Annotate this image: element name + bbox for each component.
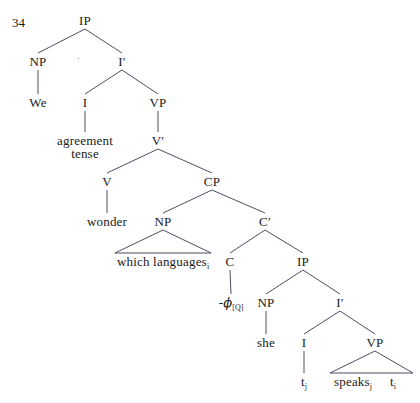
edge-vbar1-cp1: [158, 149, 212, 173]
tree-node-ibar2: I′: [336, 296, 344, 309]
tree-node-i1: I: [83, 96, 88, 109]
triangle-np2-whichlang: [115, 230, 211, 253]
tree-node-c1: C: [226, 255, 235, 268]
edge-vbar1-v1: [107, 149, 158, 173]
edge-ibar2-i2: [304, 311, 340, 334]
edge-ip1-np1: [38, 29, 85, 53]
tree-node-ip2: IP: [297, 255, 309, 268]
tree-node-v1: V: [102, 175, 112, 188]
tree-node-we: We: [29, 96, 46, 109]
tree-node-tj: tj: [301, 375, 307, 390]
tree-node-ibar1: I′: [118, 55, 126, 68]
tree-node-agrtense: agreementtense: [57, 134, 113, 160]
edge-cbar1-ip2: [265, 230, 303, 253]
tree-node-ti: ti: [390, 375, 396, 390]
tree-branch-lines: [0, 0, 420, 403]
edge-ip2-ibar2: [303, 270, 340, 294]
edge-ip2-np3: [266, 270, 303, 294]
tree-node-vp1: VP: [149, 96, 166, 109]
speck-artifact: [78, 58, 79, 59]
edge-ibar1-vp1: [122, 70, 158, 94]
tree-node-np3: NP: [257, 296, 274, 309]
tree-node-vbar1: V′: [152, 134, 165, 147]
edge-cp1-np2: [163, 190, 212, 213]
tree-node-whichlang: which languagesi: [117, 255, 209, 270]
tree-node-i2: I: [302, 336, 307, 349]
edge-ibar2-vp2: [340, 311, 375, 334]
tree-node-ip1: IP: [79, 14, 91, 27]
edge-c1-phiq: [230, 270, 231, 294]
tree-node-cp1: CP: [204, 175, 220, 188]
edge-cp1-cbar1: [212, 190, 265, 213]
edge-ip1-ibar1: [85, 29, 122, 53]
edge-ibar1-i1: [85, 70, 122, 94]
tree-node-np2: NP: [154, 215, 171, 228]
syntax-tree-figure: 34 IPNPI′WeIVPagreementtenseV′VCPwonderN…: [0, 0, 420, 403]
tree-node-she: she: [257, 336, 275, 349]
tree-node-cbar1: C′: [259, 215, 271, 228]
tree-node-np1: NP: [29, 55, 46, 68]
tree-node-vp2: VP: [366, 336, 383, 349]
triangle-vp2-speaksj: [330, 351, 413, 373]
tree-node-speaksj: speaksj: [334, 375, 372, 390]
edge-cbar1-c1: [230, 230, 265, 253]
tree-node-wonder: wonder: [87, 215, 127, 228]
tree-node-phiq: -ϕ[Q]: [219, 296, 244, 311]
